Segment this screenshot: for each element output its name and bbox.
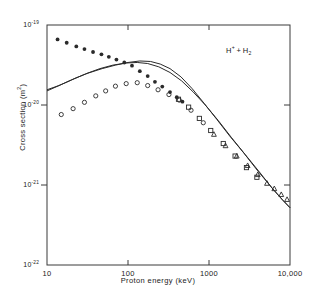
open-triangles-point xyxy=(279,192,284,197)
open-circles-point xyxy=(124,82,128,86)
reaction-annotation: H+ + H2 xyxy=(226,44,251,56)
filled-circles-point xyxy=(83,47,87,51)
open-circles-point xyxy=(135,81,139,85)
open-circles-point xyxy=(146,83,150,87)
open-circles-point xyxy=(71,107,75,111)
y-tick-label: 10-22 xyxy=(9,260,39,268)
y-tick-label: 10-19 xyxy=(9,20,39,28)
x-tick-label: 10,000 xyxy=(267,269,313,278)
open-circles-point xyxy=(59,112,63,116)
open-circles-point xyxy=(156,88,160,92)
open-triangles-point xyxy=(285,197,290,202)
open-circles-point xyxy=(104,89,108,93)
axis-ticks xyxy=(41,25,290,265)
y-tick-label: 10-21 xyxy=(9,180,39,188)
filled-circles-point xyxy=(56,38,60,42)
filled-circles-point xyxy=(146,74,150,78)
y-axis-label-text: Cross section (m2) xyxy=(17,84,26,151)
open-circles-point xyxy=(94,94,98,98)
filled-circles-point xyxy=(138,69,142,73)
open-circles-point xyxy=(201,121,205,125)
x-tick-label: 1000 xyxy=(186,269,232,278)
open-triangles-point xyxy=(265,181,270,186)
filled-circles-point xyxy=(122,61,126,65)
plot-canvas xyxy=(0,0,316,296)
open-squares-point xyxy=(197,116,201,120)
x-tick-label: 100 xyxy=(105,269,151,278)
axes-frame xyxy=(47,25,290,265)
open-squares-point xyxy=(209,128,213,132)
filled-circles-point xyxy=(65,41,69,45)
theory-curves xyxy=(47,61,290,208)
figure: Cross section (m2) Proton energy (keV) H… xyxy=(0,0,316,296)
x-tick-label: 10 xyxy=(24,269,70,278)
y-tick-label: 10-20 xyxy=(9,100,39,108)
filled-circles-point xyxy=(91,50,95,54)
filled-circles-point xyxy=(100,52,104,56)
open-circles-point xyxy=(113,84,117,88)
filled-circles-point xyxy=(115,58,119,62)
theory-curve-2 xyxy=(47,61,290,208)
open-circles-point xyxy=(82,100,86,104)
filled-circles-point xyxy=(107,55,111,59)
theory-curve-1 xyxy=(47,62,290,207)
filled-circles-point xyxy=(153,80,157,84)
filled-circles-point xyxy=(130,64,134,68)
y-axis-label: Cross section (m2) xyxy=(16,62,27,172)
filled-circles-point xyxy=(74,45,78,49)
filled-circles-point xyxy=(160,85,164,89)
data-markers xyxy=(56,38,290,202)
